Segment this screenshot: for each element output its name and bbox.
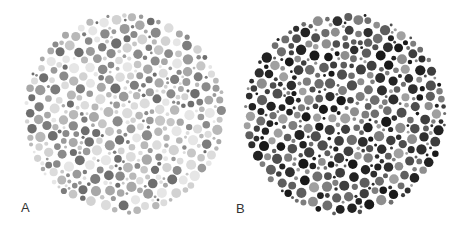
plate-dot bbox=[360, 46, 363, 49]
plate-label-a: A bbox=[21, 201, 30, 214]
plate-dot bbox=[274, 77, 278, 81]
plate-dot bbox=[355, 31, 362, 38]
plate-dot bbox=[115, 135, 124, 144]
plate-dot bbox=[361, 165, 370, 174]
plate-dot bbox=[332, 212, 336, 216]
plate-dot bbox=[273, 89, 283, 99]
plate-dot bbox=[301, 60, 307, 66]
plate-dot bbox=[348, 72, 355, 79]
plate-dot bbox=[295, 199, 299, 203]
plate-dot bbox=[67, 179, 71, 183]
plate-dot bbox=[44, 112, 51, 119]
plate-dot bbox=[157, 199, 160, 202]
plate-dot bbox=[306, 107, 310, 111]
plate-dot bbox=[292, 75, 297, 80]
plate-dot bbox=[167, 175, 177, 185]
plate-dot bbox=[416, 112, 420, 116]
plate-dot bbox=[194, 72, 203, 81]
plate-dot bbox=[322, 201, 332, 211]
plate-dot bbox=[123, 54, 127, 58]
plate-dot bbox=[124, 35, 131, 42]
plate-dot bbox=[81, 126, 90, 135]
plate-dot bbox=[356, 92, 365, 101]
plate-dot bbox=[146, 76, 153, 83]
plate-dot bbox=[397, 108, 407, 118]
plate-dot bbox=[338, 86, 347, 95]
plate-dot bbox=[439, 119, 444, 124]
plate-dot bbox=[163, 134, 170, 141]
plate-dot bbox=[298, 159, 308, 169]
plate-dot bbox=[132, 134, 141, 143]
plate-dot bbox=[141, 202, 149, 210]
plate-dot bbox=[123, 163, 133, 173]
plate-dot bbox=[265, 89, 270, 94]
plate-dot bbox=[325, 92, 334, 101]
plate-dot bbox=[137, 35, 147, 45]
plate-dot bbox=[166, 118, 174, 126]
plate-dot bbox=[279, 72, 288, 81]
plate-dot bbox=[94, 37, 100, 43]
plate-dot bbox=[309, 182, 319, 192]
plate-dot bbox=[294, 130, 304, 140]
plate-dot bbox=[154, 45, 164, 55]
plate-dot bbox=[385, 71, 390, 76]
plate-dot bbox=[382, 99, 388, 105]
plate-dot bbox=[333, 16, 343, 26]
plate-dot bbox=[249, 103, 256, 110]
plate-dot bbox=[52, 180, 57, 185]
plate-dot bbox=[146, 45, 153, 52]
plate-dot bbox=[118, 148, 125, 155]
plate-dot bbox=[157, 188, 167, 198]
plate-dot bbox=[196, 99, 203, 106]
plate-dot bbox=[35, 143, 42, 150]
plate-dot bbox=[177, 70, 182, 75]
plate-dot bbox=[78, 151, 81, 154]
plate-dot bbox=[173, 38, 181, 46]
plate-dot bbox=[345, 159, 348, 162]
plate-dot bbox=[183, 187, 189, 193]
plate-dot bbox=[214, 146, 218, 150]
plate-dot bbox=[374, 120, 378, 124]
plate-dot bbox=[142, 154, 152, 164]
plate-dot bbox=[106, 15, 109, 18]
plate-dot bbox=[294, 112, 301, 119]
plate-dot bbox=[146, 117, 154, 125]
plate-dot bbox=[272, 42, 279, 49]
plate-dot bbox=[113, 95, 117, 99]
plate-dot bbox=[364, 14, 367, 17]
plate-dot bbox=[76, 84, 85, 93]
plate-dot bbox=[213, 120, 216, 123]
plate-dot bbox=[106, 92, 112, 98]
plate-dot bbox=[322, 39, 331, 48]
plate-dot bbox=[435, 104, 439, 108]
plate-dot bbox=[186, 131, 190, 135]
plate-dot bbox=[319, 105, 328, 114]
plate-dot bbox=[337, 132, 340, 135]
plate-dot bbox=[389, 190, 398, 199]
plate-dot bbox=[164, 23, 174, 33]
plate-dot bbox=[410, 124, 420, 134]
plate-dot bbox=[347, 135, 357, 145]
plate-dot bbox=[418, 56, 425, 63]
plate-dot bbox=[80, 141, 84, 145]
plate-dot bbox=[386, 136, 395, 145]
plate-dot bbox=[101, 134, 104, 137]
plate-dot bbox=[376, 51, 386, 61]
plate-dot bbox=[45, 95, 52, 102]
plate-dot bbox=[201, 82, 210, 91]
plate-dot bbox=[363, 60, 366, 63]
plate-dot bbox=[266, 165, 276, 175]
plate-dot bbox=[328, 161, 335, 168]
plate-dot bbox=[305, 169, 310, 174]
plate-dot bbox=[108, 152, 111, 155]
plate-dot bbox=[410, 41, 416, 47]
plate-dot bbox=[315, 123, 323, 131]
plate-dot bbox=[325, 193, 330, 198]
plate-dot bbox=[161, 58, 168, 65]
plate-dot bbox=[111, 29, 116, 34]
plate-dot bbox=[177, 158, 184, 165]
plate-dot bbox=[336, 96, 345, 105]
plate-dot bbox=[86, 196, 96, 206]
plate-dot bbox=[26, 85, 34, 93]
plate-dot bbox=[175, 50, 182, 57]
